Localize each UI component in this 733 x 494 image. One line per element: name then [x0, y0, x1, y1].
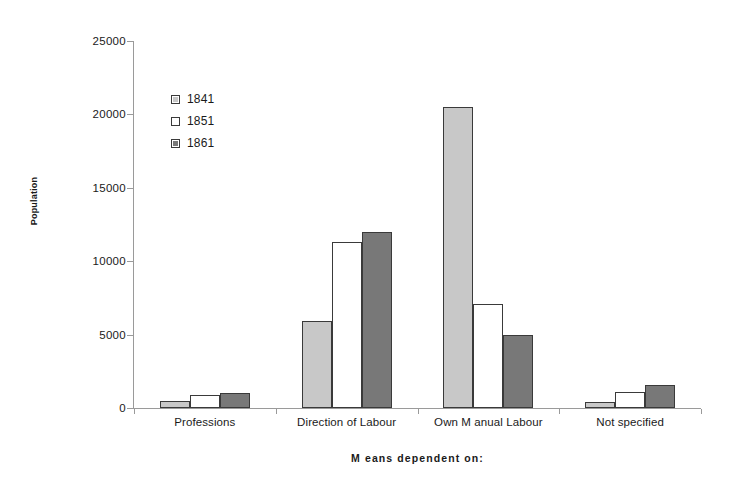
legend-entry[interactable]: 1841: [171, 88, 215, 110]
x-axis-tick-mark: [134, 409, 135, 414]
y-axis-tick-labels: 0500010000150002000025000: [60, 30, 126, 420]
y-axis-tick-mark: [127, 114, 133, 115]
bar: [645, 385, 675, 408]
y-axis-tick-label: 15000: [60, 182, 126, 194]
legend-entry[interactable]: 1851: [171, 110, 215, 132]
y-axis-tick-label: 25000: [60, 35, 126, 47]
legend-label: 1861: [187, 136, 215, 150]
bar: [585, 402, 615, 408]
bar: [362, 232, 392, 408]
legend-label: 1841: [187, 92, 215, 106]
x-axis-category-labels: ProfessionsDirection of LabourOwn M anua…: [134, 416, 701, 438]
y-axis-tick-label: 5000: [60, 329, 126, 341]
x-axis-tick-mark: [418, 409, 419, 414]
legend-label: 1851: [187, 114, 215, 128]
y-axis-tick-mark: [127, 335, 133, 336]
bar: [160, 401, 190, 408]
bar: [220, 393, 250, 408]
legend-entry[interactable]: 1861: [171, 132, 215, 154]
y-axis-tick-label: 20000: [60, 108, 126, 120]
bar-group: [302, 41, 392, 408]
x-axis-title: M eans dependent on:: [134, 452, 701, 464]
bar: [503, 335, 533, 408]
bar-group: [443, 41, 533, 408]
y-axis-tick-mark: [127, 261, 133, 262]
x-axis-tick-mark: [559, 409, 560, 414]
legend-swatch-icon: [171, 117, 180, 126]
bar: [473, 304, 503, 408]
y-axis-tick-mark: [127, 41, 133, 42]
y-axis-tick-label: 0: [60, 402, 126, 414]
bar-chart: Population 0500010000150002000025000 Pro…: [0, 0, 733, 494]
x-axis-category-label: Direction of Labour: [297, 416, 396, 428]
x-axis-category-label: Own M anual Labour: [434, 416, 543, 428]
chart-legend: 184118511861: [171, 88, 215, 154]
bar: [443, 107, 473, 408]
x-axis-tick-mark: [276, 409, 277, 414]
bar: [190, 395, 220, 408]
bar: [332, 242, 362, 408]
bar-group: [585, 41, 675, 408]
y-axis-tick-label: 10000: [60, 255, 126, 267]
y-axis-tick-mark: [127, 188, 133, 189]
x-axis-category-label: Not specified: [596, 416, 664, 428]
bar: [302, 321, 332, 408]
y-axis-tick-mark: [127, 408, 133, 409]
y-axis-title: Population: [29, 141, 39, 261]
plot-area: [134, 41, 701, 408]
x-axis-category-label: Professions: [174, 416, 235, 428]
x-axis-tick-mark: [701, 409, 702, 414]
bar: [615, 392, 645, 408]
legend-swatch-icon: [171, 139, 180, 148]
legend-swatch-icon: [171, 95, 180, 104]
